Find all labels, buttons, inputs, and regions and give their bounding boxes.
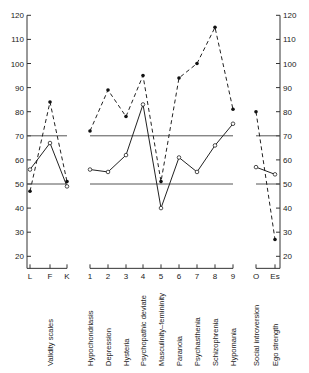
left-tick-label: 60 [15,156,24,165]
open-point-marker [177,156,181,160]
x-tick-label: 4 [141,272,146,281]
open-point-marker [88,168,92,172]
filled-point-marker [254,110,258,114]
right-tick-label: 90 [283,84,292,93]
mmpi-profile-chart: 2020303040405050606070708080909010010011… [0,0,309,373]
open-point-marker [65,185,69,189]
right-tick-label: 50 [283,180,292,189]
label-clinical-scale: Schizophrenia [211,318,220,366]
solid-profile-line [256,167,275,174]
filled-point-marker [28,189,32,193]
x-tick-label: 6 [177,272,182,281]
left-tick-label: 50 [15,180,24,189]
open-point-marker [254,165,258,169]
x-tick-label: K [64,272,70,281]
open-point-marker [106,170,110,174]
x-tick-label: 8 [213,272,218,281]
open-point-marker [273,173,277,177]
dashed-profile-line [90,27,233,181]
filled-point-marker [195,62,199,66]
x-tick-label: F [48,272,53,281]
x-tick-label: O [253,272,259,281]
x-tick-label: 5 [159,272,164,281]
right-tick-label: 40 [283,204,292,213]
dashed-profile-line [30,102,67,191]
x-tick-label: 1 [88,272,93,281]
right-tick-label: 70 [283,132,292,141]
right-tick-label: 30 [283,228,292,237]
label-supplementary-scale: Ego strength [271,323,280,366]
label-clinical-scale: Paranoia [175,335,184,366]
filled-point-marker [48,100,52,104]
x-tick-label: 7 [195,272,200,281]
right-tick-label: 110 [283,35,296,44]
filled-point-marker [141,74,145,78]
x-tick-label: 3 [124,272,129,281]
open-point-marker [213,144,217,148]
solid-profile-line [90,104,233,208]
x-tick-label: Es [270,272,279,281]
filled-point-marker [88,129,92,133]
x-tick-label: L [28,272,33,281]
x-tick-label: 2 [106,272,111,281]
open-point-marker [195,170,199,174]
right-tick-label: 20 [283,252,292,261]
filled-point-marker [273,238,277,242]
dashed-profile-line [256,112,275,240]
filled-point-marker [231,107,235,111]
open-point-marker [48,141,52,145]
right-tick-label: 120 [283,11,297,20]
filled-point-marker [213,26,217,30]
filled-point-marker [124,115,128,119]
open-point-marker [159,206,163,210]
left-tick-label: 40 [15,204,24,213]
label-validity-scales: Validity scales [46,319,55,366]
label-clinical-scale: Hypomania [229,327,238,366]
left-tick-label: 120 [11,11,25,20]
right-tick-label: 60 [283,156,292,165]
left-tick-label: 90 [15,84,24,93]
filled-point-marker [159,180,163,184]
open-point-marker [28,168,32,172]
open-point-marker [231,122,235,126]
left-tick-label: 110 [11,35,24,44]
left-tick-label: 80 [15,108,24,117]
label-clinical-scale: Psychopathic deviate [139,295,148,366]
solid-profile-line [30,143,67,186]
label-supplementary-scale: Social introversion [252,305,261,366]
left-tick-label: 20 [15,252,24,261]
open-point-marker [141,103,145,107]
label-clinical-scale: Masculinity–femininity [157,293,166,366]
filled-point-marker [106,88,110,92]
label-clinical-scale: Psychasthenia [193,316,202,366]
label-clinical-scale: Hysteria [122,338,131,366]
label-clinical-scale: Depression [104,328,113,366]
left-tick-label: 30 [15,228,24,237]
label-clinical-scale: Hypochondriasis [86,310,95,366]
filled-point-marker [177,76,181,80]
right-tick-label: 80 [283,108,292,117]
left-tick-label: 100 [11,60,25,69]
x-tick-label: 9 [231,272,236,281]
open-point-marker [124,153,128,157]
right-tick-label: 100 [283,60,297,69]
left-tick-label: 70 [15,132,24,141]
